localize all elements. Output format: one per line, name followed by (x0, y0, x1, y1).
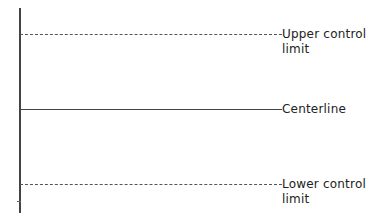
upper-control-limit-line (20, 34, 282, 35)
vertical-axis (19, 8, 21, 213)
centerline-label: Centerline (282, 102, 346, 117)
upper-control-limit-label: Upper control limit (282, 27, 366, 57)
ucl-label-line1: Upper control (282, 27, 366, 42)
lower-control-limit-label: Lower control limit (282, 177, 366, 207)
lcl-label-line1: Lower control (282, 177, 366, 192)
ucl-label-line2: limit (282, 42, 366, 57)
lcl-label-line2: limit (282, 192, 366, 207)
centerline-label-text: Centerline (282, 102, 346, 117)
lower-control-limit-line (20, 184, 282, 185)
centerline (20, 109, 282, 110)
axis-tick (17, 201, 21, 202)
